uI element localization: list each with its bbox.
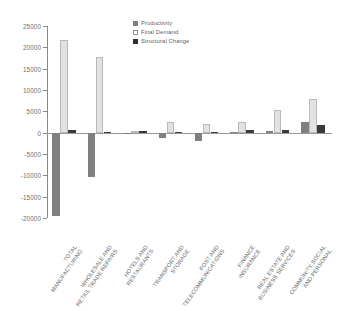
bar-structural — [211, 132, 218, 133]
bar-demand — [167, 122, 174, 132]
bar-demand — [238, 122, 245, 132]
bar-group — [154, 26, 190, 218]
bar-structural — [246, 130, 253, 133]
y-tick-label: -10000 — [21, 172, 41, 179]
bar-group — [261, 26, 297, 218]
y-tick-label: -20000 — [21, 215, 41, 222]
y-tick — [43, 218, 47, 219]
y-tick-label: 0 — [37, 129, 41, 136]
bar-productivity — [230, 132, 237, 133]
bar-structural — [104, 132, 111, 133]
bar-productivity — [266, 131, 273, 133]
bar-group — [83, 26, 119, 218]
y-tick-label: -5000 — [24, 151, 41, 158]
x-axis-label: FINANCEINSURANCE — [231, 244, 261, 280]
bar-productivity — [159, 133, 166, 139]
bar-productivity — [52, 133, 59, 216]
bar-demand — [60, 40, 67, 133]
bar-productivity — [195, 133, 202, 141]
bar-group — [118, 26, 154, 218]
x-axis-label: TRANSPORT ANDSTORAGE — [151, 244, 190, 292]
bar-demand — [274, 110, 281, 133]
bar-structural — [317, 125, 324, 132]
bar-group — [190, 26, 226, 218]
bar-structural — [68, 130, 75, 133]
y-tick-label: 20000 — [23, 44, 41, 51]
x-axis-label: HOTELS ANDRESTAURANTS — [119, 244, 154, 287]
bar-group — [225, 26, 261, 218]
y-tick-label: 10000 — [23, 87, 41, 94]
bar-productivity — [123, 133, 130, 134]
x-axis-labels: TOTALMANUFACTURINGWHOLESALE ANDRETAIL TR… — [47, 244, 332, 311]
y-tick-label: -15000 — [21, 193, 41, 200]
bar-structural — [139, 131, 146, 133]
y-tick-label: 5000 — [27, 108, 41, 115]
bar-productivity — [301, 122, 308, 133]
plot-area: 2500020000150001000050000-5000-10000-150… — [47, 26, 332, 218]
bar-group — [47, 26, 83, 218]
bar-structural — [282, 130, 289, 133]
bar-group — [296, 26, 332, 218]
bar-demand — [131, 131, 138, 133]
y-tick-label: 25000 — [23, 23, 41, 30]
bar-demand — [309, 99, 316, 133]
bar-demand — [203, 124, 210, 133]
productivity-swatch-icon — [133, 21, 138, 26]
bar-demand — [96, 57, 103, 133]
bar-structural — [175, 132, 182, 133]
y-tick-label: 15000 — [23, 65, 41, 72]
bar-productivity — [88, 133, 95, 178]
